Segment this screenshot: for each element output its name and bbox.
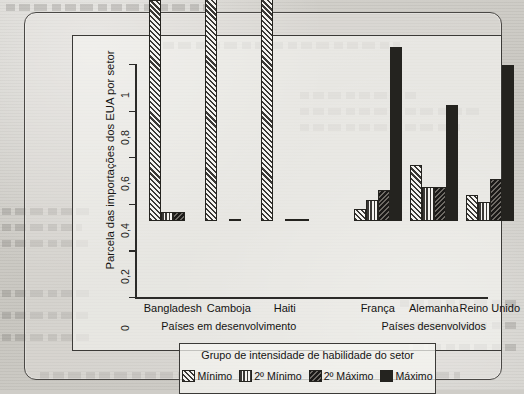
chart-plot-area: Parcela das importações dos EUA por seto… [72,35,502,351]
legend-swatch-vertical-lines-icon [239,370,252,382]
figure-frame: Parcela das importações dos EUA por seto… [24,12,502,380]
bar-m-nimo-fran-a [354,209,366,221]
bar-2-m-ximo-camboja [229,219,241,221]
bar-m-nimo-camboja [205,0,217,221]
bar-m-nimo-bangladesh [149,0,161,221]
bar-2-m-ximo-fran-a [378,190,390,221]
bar-m-nimo-haiti [261,0,273,221]
x-axis-group-label: Países em desenvolvimento [161,320,296,332]
y-tick-label: 0,4 [119,204,131,238]
y-tick-label: 0,2 [119,250,131,284]
bar-2-m-ximo-haiti [285,219,297,221]
ghost-text-line [6,4,206,11]
legend-items: Mínimo2º Mínimo2º MáximoMáximo [180,370,435,382]
legend-item: Máximo [380,370,432,382]
bar-m-ximo-alemanha [446,105,458,222]
x-axis-label: Haiti [274,302,296,314]
y-axis-title: Parcela das importações dos EUA por seto… [104,45,116,275]
legend-label: 2º Máximo [324,370,374,382]
legend-item: 2º Mínimo [239,370,301,382]
x-axis-label: Reino Unido [459,302,520,314]
y-tick-label: 0,6 [119,157,131,191]
bar-m-nimo-reino-unido [466,195,478,221]
bar-2-m-nimo-alemanha [422,187,434,221]
legend-item: 2º Máximo [309,370,374,382]
bar-2-m-nimo-fran-a [366,200,378,221]
bar-2-m-ximo-alemanha [434,187,446,221]
legend-swatch-diagonal-hatch-icon [182,370,195,382]
bar-2-m-ximo-bangladesh [173,212,185,221]
y-tick-label: 1 [119,64,131,98]
y-tick-label: 0,8 [119,111,131,145]
bar-2-m-nimo-bangladesh [161,212,173,221]
bar-2-m-ximo-reino-unido [490,179,502,221]
legend-label: Mínimo [197,370,232,382]
bar-m-ximo-fran-a [390,47,402,221]
y-tick-label: 0 [119,297,131,331]
bar-m-nimo-alemanha [410,165,422,221]
x-axis-label: Camboja [207,302,251,314]
chart-legend: Grupo de intensidade de habilidade do se… [179,343,436,394]
x-axis-label: França [361,302,395,314]
legend-label: 2º Mínimo [254,370,301,382]
x-axis-label: Bangladesh [144,302,202,314]
legend-title: Grupo de intensidade de habilidade do se… [180,349,435,361]
legend-label: Máximo [395,370,432,382]
legend-swatch-solid-icon [380,370,393,382]
bar-m-ximo-haiti [297,219,309,221]
bar-m-ximo-reino-unido [502,65,514,221]
x-axis-label: Alemanha [409,302,459,314]
x-axis-group-label: Países desenvolvidos [382,320,486,332]
legend-swatch-dark-back-hatch-icon [309,370,322,382]
bar-2-m-nimo-reino-unido [478,202,490,221]
legend-item: Mínimo [182,370,232,382]
